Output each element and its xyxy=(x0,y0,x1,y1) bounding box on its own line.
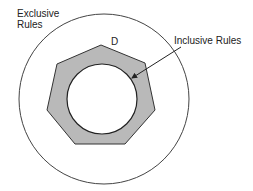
exclusive-rules-label-line2: Rules xyxy=(17,19,43,30)
inclusive-rules-inner-circle xyxy=(67,64,137,134)
exclusive-rules-label-line1: Exclusive xyxy=(17,8,60,19)
rules-diagram: Exclusive Rules D Inclusive Rules xyxy=(0,0,253,191)
inclusive-rules-label: Inclusive Rules xyxy=(174,35,241,46)
domain-label: D xyxy=(111,36,118,47)
